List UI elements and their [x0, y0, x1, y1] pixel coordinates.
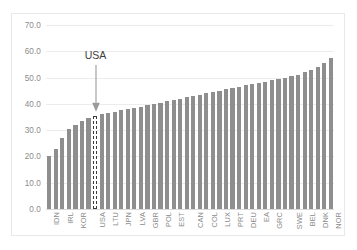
bar-series	[46, 25, 334, 209]
bar	[119, 110, 123, 209]
bar	[60, 138, 64, 209]
bar	[237, 87, 241, 209]
bar	[211, 92, 215, 209]
bar	[217, 91, 221, 209]
bar	[185, 97, 189, 209]
bar	[178, 99, 182, 209]
bar	[145, 105, 149, 209]
x-label-slot: NOR	[328, 210, 335, 236]
bar	[263, 82, 267, 209]
bar	[106, 113, 110, 209]
bar	[86, 118, 90, 209]
y-axis-tick-label: 30.0	[25, 126, 41, 135]
bar	[165, 101, 169, 209]
bar	[250, 84, 254, 209]
bar	[80, 121, 84, 209]
bar	[204, 93, 208, 209]
bar	[47, 156, 51, 209]
bar	[54, 149, 58, 209]
bar	[67, 129, 71, 209]
bar-highlighted-usa	[93, 116, 97, 209]
y-axis-tick-label: 60.0	[25, 47, 41, 56]
bar	[73, 125, 77, 209]
bar	[270, 80, 274, 209]
y-axis-tick-label: 40.0	[25, 99, 41, 108]
bar	[198, 95, 202, 209]
bar	[283, 78, 287, 209]
bar	[289, 76, 293, 209]
bar	[322, 63, 326, 209]
bar	[139, 107, 143, 210]
bar	[257, 83, 261, 209]
bar-slot	[328, 25, 335, 209]
bar	[172, 100, 176, 209]
bar	[316, 67, 320, 209]
bar	[303, 72, 307, 209]
bar	[309, 70, 313, 209]
y-axis-tick-label: 20.0	[25, 152, 41, 161]
bar	[276, 79, 280, 209]
y-axis-tick-label: 70.0	[25, 21, 41, 30]
bar	[158, 103, 162, 209]
bar	[191, 96, 195, 209]
plot-area: 0.010.020.030.040.050.060.070.0 USA	[46, 25, 334, 209]
bar	[296, 75, 300, 209]
chart-container: 0.010.020.030.040.050.060.070.0 USA IDNI…	[11, 13, 345, 236]
bar	[230, 88, 234, 209]
bar	[132, 108, 136, 209]
bar	[100, 114, 104, 209]
bar	[113, 112, 117, 209]
y-axis-tick-label: 10.0	[25, 178, 41, 187]
y-axis-tick-label: 0.0	[29, 205, 41, 214]
bar	[224, 89, 228, 209]
bar	[329, 58, 333, 209]
bar	[244, 85, 248, 209]
x-axis-labels: IDNIRLKORUSALTUJPNLVAGBRPOLESTCANCOLLUXP…	[46, 210, 334, 236]
bar	[152, 104, 156, 209]
y-axis-tick-label: 50.0	[25, 73, 41, 82]
bar	[126, 109, 130, 209]
x-axis-tick-label: NOR	[334, 212, 343, 229]
